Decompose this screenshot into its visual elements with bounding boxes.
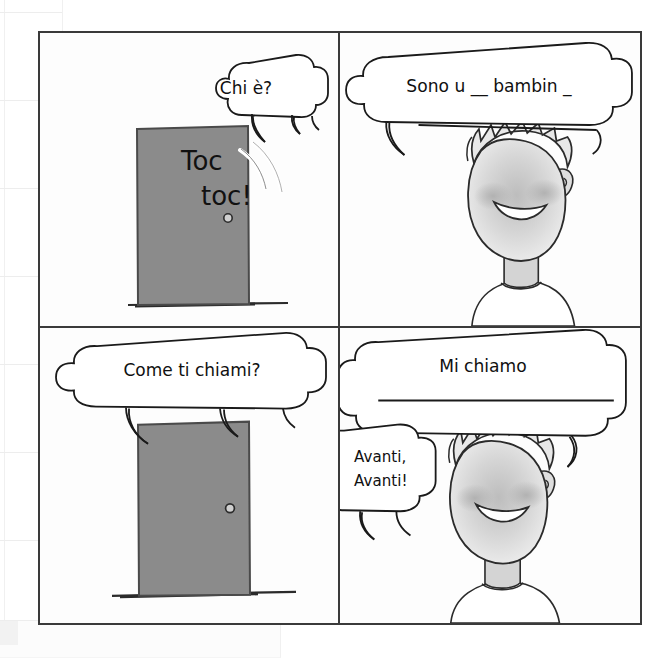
blush-right [525, 179, 563, 207]
panel-1-bubble-text: Chi è? [220, 78, 272, 98]
bubble-tail-2b [294, 116, 300, 134]
speech-bubble-shape [340, 330, 626, 436]
sound-effect-line-2: toc! [201, 181, 252, 211]
blush-right [507, 481, 545, 509]
panel-4-small-bubble-line-1: Avanti, [354, 448, 406, 466]
background-panel [0, 621, 281, 658]
panel-3-artwork: Come ti chiami? [40, 328, 338, 623]
panel-2-bubble-text: Sono u __ bambin _ [406, 76, 572, 97]
bubble-tail-3 [283, 409, 295, 428]
bubble-tail-1b [253, 115, 265, 142]
bubble-tail-3 [312, 116, 319, 130]
panel-3-bubble-text: Come ti chiami? [124, 360, 261, 380]
background-panel-corner [0, 621, 18, 645]
comic-panel-2: Sono u __ bambin _ [340, 33, 640, 328]
panel-1-artwork: Toc toc! Chi è? [40, 33, 338, 326]
doorknob [226, 504, 235, 513]
bubble-tail-1b [568, 437, 575, 467]
small-speech-bubble-shape [340, 425, 436, 512]
comic-panel-4: Mi chiamo Avanti, Avanti! [340, 328, 640, 623]
bubble-tail-2 [593, 130, 601, 154]
panel-4-bubble-text: Mi chiamo [439, 356, 527, 376]
comic-strip: Toc toc! Chi è? [38, 31, 642, 625]
comic-panel-1: Toc toc! Chi è? [40, 33, 340, 328]
panel-4-small-bubble-line-2: Avanti! [354, 472, 407, 490]
small-bubble-tail-2 [396, 511, 410, 535]
bubble-tail-1b [389, 123, 404, 155]
panel-2-artwork: Sono u __ bambin _ [340, 33, 640, 326]
bubble-tail-1 [252, 114, 265, 142]
doorknob [224, 214, 232, 222]
panel-4-artwork: Mi chiamo Avanti, Avanti! [340, 328, 640, 623]
sound-effect-line-1: Toc [180, 146, 223, 176]
comic-panel-3: Come ti chiami? [40, 328, 340, 623]
